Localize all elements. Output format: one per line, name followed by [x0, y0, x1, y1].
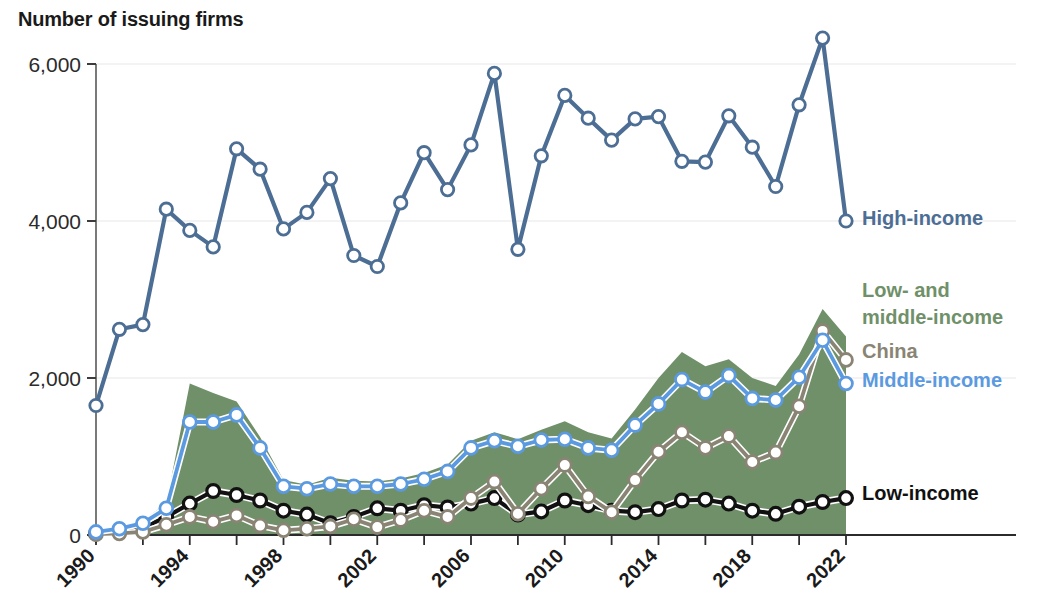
data-point-middle-income — [90, 526, 103, 539]
data-point-middle-income — [183, 416, 196, 429]
data-point-middle-income — [535, 434, 548, 447]
data-point-middle-income — [113, 522, 126, 535]
data-point-high-income — [793, 99, 805, 111]
data-point-middle-income — [629, 419, 642, 432]
data-point-high-income — [137, 318, 149, 330]
data-point-middle-income — [605, 444, 618, 457]
data-point-high-income — [676, 155, 688, 167]
y-axis-tick-label: 6,000 — [28, 53, 81, 76]
x-axis-tick-label: 2010 — [521, 544, 568, 591]
data-point-china — [512, 507, 525, 520]
data-point-high-income — [254, 163, 266, 175]
data-point-high-income — [160, 203, 172, 215]
data-point-china — [441, 511, 454, 524]
data-point-china — [254, 519, 267, 532]
legend-label-high-income: High-income — [862, 207, 983, 229]
data-point-middle-income — [652, 398, 665, 411]
data-point-china — [793, 400, 806, 413]
data-point-middle-income — [347, 480, 360, 493]
line-series-high-income — [96, 38, 846, 405]
data-point-middle-income — [558, 433, 571, 446]
legend-label-low-and-middle-income-2: middle-income — [862, 306, 1003, 328]
y-axis-tick-labels: 02,0004,0006,000 — [28, 53, 81, 547]
data-point-high-income — [348, 249, 360, 261]
x-axis-tick-label: 1994 — [146, 544, 194, 592]
data-point-high-income — [324, 172, 336, 184]
x-axis-tick-label: 2014 — [614, 544, 662, 592]
data-point-high-income — [113, 323, 125, 335]
data-point-china — [582, 490, 595, 503]
data-point-china — [347, 513, 360, 526]
data-point-low-income — [535, 505, 548, 518]
data-point-middle-income — [488, 434, 501, 447]
data-point-china — [676, 426, 689, 439]
data-point-middle-income — [699, 386, 712, 399]
data-point-high-income — [582, 112, 594, 124]
data-point-china — [652, 445, 665, 458]
data-point-middle-income — [207, 416, 220, 429]
data-point-low-income — [371, 502, 384, 515]
data-point-china — [465, 492, 478, 505]
data-point-high-income — [559, 89, 571, 101]
data-point-high-income — [770, 180, 782, 192]
data-point-middle-income — [418, 473, 431, 486]
data-point-china — [840, 354, 853, 367]
data-point-high-income — [723, 110, 735, 122]
data-point-high-income — [418, 147, 430, 159]
data-point-low-income — [207, 485, 220, 498]
data-point-low-income — [183, 497, 196, 510]
data-point-middle-income — [160, 502, 173, 515]
x-axis-tick-label: 2002 — [333, 544, 380, 591]
data-point-china — [629, 474, 642, 487]
data-point-high-income — [652, 110, 664, 122]
data-point-middle-income — [769, 394, 782, 407]
data-point-middle-income — [582, 442, 595, 455]
data-point-low-income — [769, 507, 782, 520]
data-point-china — [160, 518, 173, 531]
data-point-high-income — [90, 399, 102, 411]
data-point-low-income — [699, 493, 712, 506]
data-point-high-income — [629, 113, 641, 125]
x-axis-tick-label: 1990 — [52, 544, 99, 591]
data-point-middle-income — [230, 409, 243, 422]
data-point-middle-income — [301, 482, 314, 495]
data-point-low-income — [652, 503, 665, 516]
data-point-china — [488, 475, 501, 488]
legend-label-middle-income: Middle-income — [862, 369, 1002, 391]
data-point-china — [371, 521, 384, 534]
data-point-high-income — [605, 134, 617, 146]
legend-label-low-and-middle-income: Low- and — [862, 279, 950, 301]
data-point-middle-income — [746, 392, 759, 405]
data-point-china — [230, 509, 243, 522]
data-point-low-income — [301, 508, 314, 521]
data-point-low-income — [840, 492, 853, 505]
data-point-high-income — [441, 183, 453, 195]
data-point-low-income — [629, 506, 642, 519]
data-point-middle-income — [441, 465, 454, 478]
data-point-high-income — [230, 143, 242, 155]
data-point-high-income — [465, 139, 477, 151]
data-point-china — [699, 442, 712, 455]
data-point-middle-income — [722, 369, 735, 382]
data-point-china — [769, 446, 782, 459]
data-point-china — [394, 514, 407, 527]
data-point-china — [746, 456, 759, 469]
data-point-china — [324, 520, 337, 533]
data-point-china — [722, 430, 735, 443]
y-axis-tick-label: 0 — [69, 524, 81, 547]
data-point-middle-income — [394, 478, 407, 491]
data-point-high-income — [816, 32, 828, 44]
x-axis-tick-label: 1998 — [239, 544, 286, 591]
data-point-high-income — [840, 215, 852, 227]
data-point-high-income — [207, 241, 219, 253]
data-point-china — [605, 506, 618, 519]
data-point-low-income — [230, 489, 243, 502]
data-point-china — [277, 524, 290, 537]
data-point-high-income — [699, 156, 711, 168]
legend: High-incomeLow- andmiddle-incomeChinaMid… — [862, 207, 1003, 504]
data-point-middle-income — [676, 373, 689, 386]
data-point-middle-income — [324, 478, 337, 491]
data-point-low-income — [558, 494, 571, 507]
data-point-high-income — [535, 150, 547, 162]
x-axis-tick-labels: 199019941998200220062010201420182022 — [52, 544, 849, 592]
